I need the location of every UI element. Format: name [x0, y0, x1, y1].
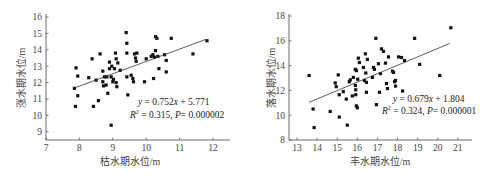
data-point [313, 126, 316, 129]
data-point [112, 78, 115, 81]
y-axis-label: 落水期水位/m [265, 48, 277, 109]
y-tick-label: 8 [280, 135, 285, 145]
x-axis-label: 枯水期水位/m [100, 155, 161, 167]
r-squared-p-value: R2 = 0.315, P= 0.000002 [129, 109, 224, 120]
data-point [358, 61, 361, 64]
data-point [101, 70, 104, 73]
x-tick-label: 10 [141, 143, 151, 153]
y-tick-label: 9 [37, 127, 42, 137]
r-squared-p-value: R2 = 0.324, P= 0.000001 [381, 105, 476, 116]
data-point [342, 90, 345, 93]
x-tick-label: 15 [332, 143, 342, 153]
data-point [413, 37, 416, 40]
data-point [418, 63, 421, 66]
data-point [92, 105, 95, 108]
data-point [135, 51, 138, 54]
y-tick-label: 13 [33, 62, 43, 72]
data-point [401, 89, 404, 92]
data-point [354, 88, 357, 91]
data-point [337, 73, 340, 76]
data-point [449, 26, 452, 29]
data-point [373, 68, 376, 71]
data-point [101, 80, 104, 83]
data-point [375, 103, 378, 106]
data-point [130, 74, 133, 77]
data-point [115, 57, 118, 60]
data-point [125, 51, 128, 54]
data-point [132, 80, 135, 83]
data-point [90, 57, 93, 60]
data-point [76, 94, 79, 97]
data-point [349, 78, 352, 81]
regression-equation: y = 0.679x + 1.804 [392, 94, 465, 104]
data-point [397, 55, 400, 58]
data-point [99, 52, 102, 55]
data-point [384, 62, 387, 65]
data-point [125, 75, 128, 78]
data-point [125, 31, 128, 34]
scatter-chart-dry-vs-rising: 789101112910111213141516 y = 0.752x + 5.… [15, 12, 230, 167]
data-point [126, 93, 129, 96]
regression-line [74, 39, 206, 88]
x-tick-label: 8 [77, 143, 82, 153]
data-point [308, 74, 311, 77]
data-point [152, 77, 155, 80]
data-point [387, 55, 390, 58]
data-point [154, 49, 157, 52]
data-point [355, 69, 358, 72]
data-point [105, 83, 108, 86]
x-tick-label: 19 [413, 143, 423, 153]
data-point [170, 37, 173, 40]
data-point [385, 82, 388, 85]
data-point [346, 124, 349, 127]
data-point [366, 58, 369, 61]
data-point [87, 76, 90, 79]
y-tick-label: 12 [33, 78, 43, 88]
figure: 789101112910111213141516 y = 0.752x + 5.… [0, 0, 488, 179]
data-point [354, 84, 357, 87]
data-point [125, 42, 128, 45]
y-tick-label: 10 [276, 111, 286, 121]
x-tick-label: 7 [44, 143, 49, 153]
data-point [329, 110, 332, 113]
y-tick-label: 10 [33, 111, 43, 121]
data-point [377, 62, 380, 65]
data-point [108, 61, 111, 64]
y-tick-label: 16 [276, 36, 286, 46]
data-point [74, 105, 77, 108]
data-point [115, 85, 118, 88]
data-point [155, 37, 158, 40]
data-point [134, 56, 137, 59]
data-point [165, 59, 168, 62]
data-point [365, 91, 368, 94]
axes: 789101112910111213141516 [33, 12, 231, 153]
x-tick-label: 21 [453, 143, 463, 153]
data-point [312, 107, 315, 110]
data-point [74, 66, 77, 69]
data-point [400, 56, 403, 59]
data-point [362, 66, 365, 69]
data-point [157, 67, 160, 70]
data-point [382, 50, 385, 53]
y-tick-label: 15 [33, 29, 43, 39]
y-tick-label: 18 [276, 11, 286, 21]
data-point [357, 57, 360, 60]
data-point [113, 67, 116, 70]
data-point [386, 87, 389, 90]
x-axis-label: 丰水期水位/m [350, 155, 411, 167]
data-point [354, 93, 357, 96]
data-point [392, 71, 395, 74]
data-point [365, 81, 368, 84]
data-point [115, 81, 118, 84]
data-point [191, 52, 194, 55]
data-point [438, 74, 441, 77]
y-tick-label: 16 [33, 12, 43, 22]
data-point [110, 124, 113, 127]
x-tick-label: 20 [433, 143, 443, 153]
data-point [145, 57, 148, 60]
y-axis-label: 涨水期水位/m [15, 48, 27, 109]
data-point [334, 81, 337, 84]
x-tick-label: 18 [393, 143, 403, 153]
data-point [351, 94, 354, 97]
data-point [165, 70, 168, 73]
